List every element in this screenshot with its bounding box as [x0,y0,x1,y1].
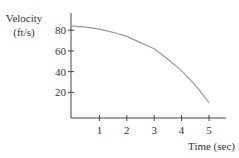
velocity-curve [72,26,209,103]
y-tick-label: 60 [55,45,67,57]
y-axis-label-line2: (ft/s) [13,26,35,39]
x-tick-label: 3 [151,124,157,136]
y-tick-label: 80 [55,24,67,36]
plot-area: 2040608012345Velocity(ft/s)Time (sec) [0,0,239,158]
x-axis-label: Time (sec) [188,140,235,153]
y-tick-label: 20 [55,86,67,98]
x-tick-label: 4 [179,124,185,136]
x-tick-label: 5 [206,124,212,136]
y-axis-label-line1: Velocity [6,12,43,24]
x-tick-label: 2 [124,124,130,136]
y-tick-label: 40 [55,66,67,78]
x-tick-label: 1 [97,124,103,136]
velocity-chart: 2040608012345Velocity(ft/s)Time (sec) [0,0,239,158]
